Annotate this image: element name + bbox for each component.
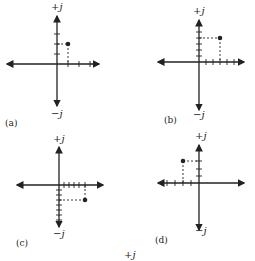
panel-b-caption: (b): [164, 116, 177, 125]
complex-plane-diagrams: [0, 0, 255, 261]
panel-d-caption: (d): [155, 236, 168, 245]
panel-a-plus-j-label: +j: [51, 2, 62, 12]
footer-plus-j-label: +j: [124, 250, 135, 260]
panel-a-minus-j-label: −j: [51, 109, 62, 119]
panel-d: [158, 145, 244, 230]
panel-b-minus-j-label: −j: [193, 110, 204, 120]
phasor-point: [181, 159, 186, 164]
panel-c-caption: (c): [16, 239, 28, 248]
panel-d-minus-j-label: −j: [195, 226, 206, 236]
tick-marks: [54, 34, 90, 67]
panel-d-plus-j-label: +j: [195, 131, 206, 141]
panel-b: [158, 20, 244, 110]
phasor-point: [66, 42, 71, 47]
phasor-point: [218, 36, 223, 41]
panel-a-caption: (a): [5, 119, 17, 128]
panel-b-plus-j-label: +j: [193, 6, 204, 16]
panel-a: [7, 16, 99, 106]
panel-c-minus-j-label: −j: [53, 229, 64, 239]
panel-c: [17, 147, 103, 227]
phasor-point: [83, 198, 88, 203]
panel-c-plus-j-label: +j: [53, 134, 64, 144]
